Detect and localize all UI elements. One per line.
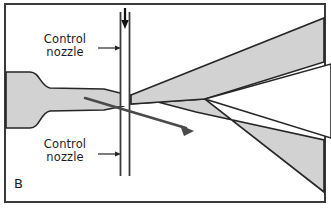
label-control-nozzle-bottom-line1: Control xyxy=(34,138,96,151)
label-control-nozzle-top-line1: Control xyxy=(34,33,96,46)
label-control-nozzle-bottom: Control nozzle xyxy=(34,138,96,163)
leader-line-top xyxy=(98,45,121,50)
supply-duct-and-throat xyxy=(6,72,124,128)
control-nozzle-crossing-gap xyxy=(121,86,130,106)
label-control-nozzle-top-line2: nozzle xyxy=(34,46,96,59)
control-inlet-arrow-down-icon xyxy=(121,8,128,29)
panel-label: B xyxy=(14,176,23,191)
figure-root: Control nozzle Control nozzle B xyxy=(0,0,331,208)
label-control-nozzle-top: Control nozzle xyxy=(34,33,96,58)
leader-line-bottom xyxy=(98,151,121,156)
label-control-nozzle-bottom-line2: nozzle xyxy=(34,151,96,164)
